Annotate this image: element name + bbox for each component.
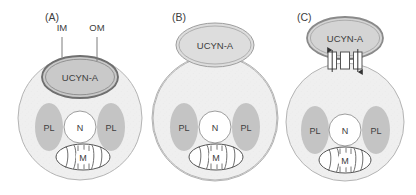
plastid-left-label-b: PL (178, 123, 189, 133)
plastid-right-label-a: PL (105, 123, 116, 133)
mitochondrion-label-b: M (212, 153, 220, 163)
panel-b-letter: (B) (172, 11, 186, 23)
transporter-complex-c (328, 49, 362, 72)
symbiont-label-c: UCYN-A (327, 33, 364, 44)
symbiont-label-b: UCYN-A (197, 40, 234, 51)
plastid-right-label-b: PL (240, 123, 251, 133)
callout-label-om: OM (89, 22, 104, 33)
diagram-svg: (A) UCYN-A IM OM PL PL N (0, 0, 416, 195)
callout-label-im: IM (57, 22, 68, 33)
plastid-left-label-a: PL (43, 123, 54, 133)
nucleus-label-c: N (342, 126, 349, 136)
panel-b: (B) UCYN-A PL PL N (152, 11, 278, 181)
mitochondrion-label-a: M (79, 153, 87, 163)
panel-c: (C) UCYN-A PL PL (286, 11, 404, 181)
plastid-right-label-c: PL (370, 126, 381, 136)
nucleus-label-b: N (212, 123, 219, 133)
nucleus-label-a: N (77, 123, 84, 133)
symbiont-label-a: UCYN-A (62, 72, 99, 83)
panel-a: (A) UCYN-A IM OM PL PL N (18, 11, 142, 180)
mitochondrion-label-c: M (341, 156, 349, 166)
figure-canvas: (A) UCYN-A IM OM PL PL N (0, 0, 416, 195)
panel-c-letter: (C) (297, 11, 312, 23)
transporter-middle (341, 52, 350, 69)
plastid-left-label-c: PL (309, 126, 320, 136)
